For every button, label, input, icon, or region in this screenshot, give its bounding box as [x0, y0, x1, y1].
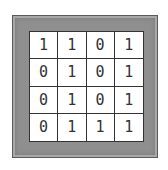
grid-cell[interactable]: 1 — [30, 32, 58, 59]
grid-cell[interactable]: 0 — [87, 87, 115, 114]
grid-cell[interactable]: 0 — [30, 87, 58, 114]
grid-cell[interactable]: 0 — [30, 59, 58, 86]
grid-cell[interactable]: 1 — [58, 114, 86, 141]
binary-grid: 1 1 0 1 0 1 0 1 0 1 0 1 0 1 1 1 — [29, 31, 144, 142]
grid-cell[interactable]: 0 — [87, 32, 115, 59]
grid-cell[interactable]: 1 — [87, 114, 115, 141]
grid-cell[interactable]: 1 — [115, 87, 143, 114]
grid-cell[interactable]: 1 — [115, 59, 143, 86]
grid-cell[interactable]: 1 — [58, 59, 86, 86]
grid-cell[interactable]: 1 — [58, 32, 86, 59]
grid-cell[interactable]: 0 — [30, 114, 58, 141]
grid-cell[interactable]: 1 — [115, 32, 143, 59]
grid-cell[interactable]: 1 — [115, 114, 143, 141]
grid-cell[interactable]: 0 — [87, 59, 115, 86]
grid-cell[interactable]: 1 — [58, 87, 86, 114]
